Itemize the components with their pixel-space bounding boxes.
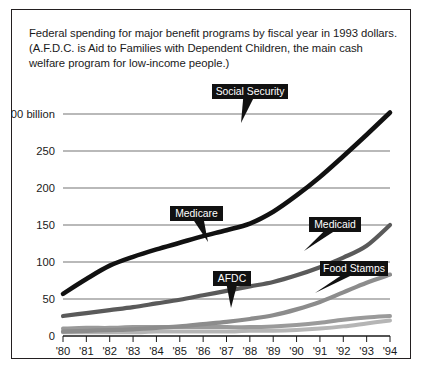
x-axis-tick-label: '91 bbox=[313, 345, 328, 357]
x-axis-tick-label: '88 bbox=[243, 345, 258, 357]
callout-label: Medicare bbox=[175, 208, 218, 219]
x-axis-tick-label: '84 bbox=[149, 345, 164, 357]
chart-figure: Federal spending for major benefit progr… bbox=[11, 9, 411, 359]
x-axis-tick-label: '81 bbox=[79, 345, 94, 357]
y-axis-tick-label: 50 bbox=[43, 293, 55, 305]
x-axis-tick-label: '83 bbox=[126, 345, 141, 357]
callout-pointer bbox=[304, 231, 335, 251]
y-axis-tick-label: $300 billion bbox=[12, 108, 55, 120]
y-axis-ticks: $300 billion250200150100500 bbox=[12, 108, 55, 342]
callout-afdc: AFDC bbox=[213, 271, 251, 308]
y-axis-tick-label: 100 bbox=[36, 256, 55, 268]
x-axis-tick-label: '93 bbox=[359, 345, 374, 357]
y-axis-tick-label: 0 bbox=[49, 330, 55, 342]
callout-social-security: Social Security bbox=[212, 84, 288, 123]
x-axis-tick-label: '82 bbox=[102, 345, 117, 357]
x-axis: '80'81'82'83'84'85'86'87'88'89'90'91'92'… bbox=[56, 336, 398, 357]
callout-label: Food Stamps bbox=[323, 263, 385, 274]
x-axis-tick-label: '89 bbox=[266, 345, 281, 357]
callout-label: Social Security bbox=[216, 86, 286, 97]
y-axis-tick-label: 150 bbox=[36, 219, 55, 231]
callout-pointer bbox=[241, 98, 254, 123]
x-axis-tick-label: '85 bbox=[172, 345, 187, 357]
line-chart-plot: $300 billion250200150100500 '80'81'82'83… bbox=[12, 10, 412, 360]
x-axis-tick-label: '94 bbox=[383, 345, 398, 357]
x-axis-tick-label: '86 bbox=[196, 345, 211, 357]
y-axis-tick-label: 250 bbox=[36, 145, 55, 157]
callout-medicaid: Medicaid bbox=[304, 217, 361, 251]
callout-label: AFDC bbox=[218, 273, 247, 284]
callout-pointer bbox=[227, 285, 237, 308]
x-axis-tick-label: '90 bbox=[289, 345, 304, 357]
y-axis-tick-label: 200 bbox=[36, 182, 55, 194]
x-axis-tick-label: '80 bbox=[56, 345, 71, 357]
x-axis-tick-label: '92 bbox=[336, 345, 351, 357]
series-callouts: Social SecurityMedicareMedicaidFood Stam… bbox=[170, 84, 388, 308]
callout-label: Medicaid bbox=[314, 219, 356, 230]
x-axis-tick-label: '87 bbox=[219, 345, 234, 357]
